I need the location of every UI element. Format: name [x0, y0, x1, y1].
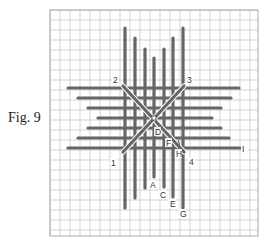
stitch-diagram: 2314DFHIACEG	[0, 0, 271, 246]
point-label-4: 4	[189, 157, 194, 167]
point-label-2: 2	[113, 75, 118, 85]
point-label-H: H	[176, 149, 182, 159]
point-label-1: 1	[111, 158, 116, 168]
point-label-G: G	[180, 209, 187, 219]
point-label-D: D	[155, 127, 161, 137]
point-label-C: C	[160, 190, 166, 200]
point-label-E: E	[170, 199, 176, 209]
point-label-F: F	[166, 138, 171, 148]
point-label-I: I	[242, 144, 244, 154]
point-label-A: A	[150, 180, 156, 190]
center-point	[152, 116, 156, 120]
point-label-3: 3	[187, 75, 192, 85]
